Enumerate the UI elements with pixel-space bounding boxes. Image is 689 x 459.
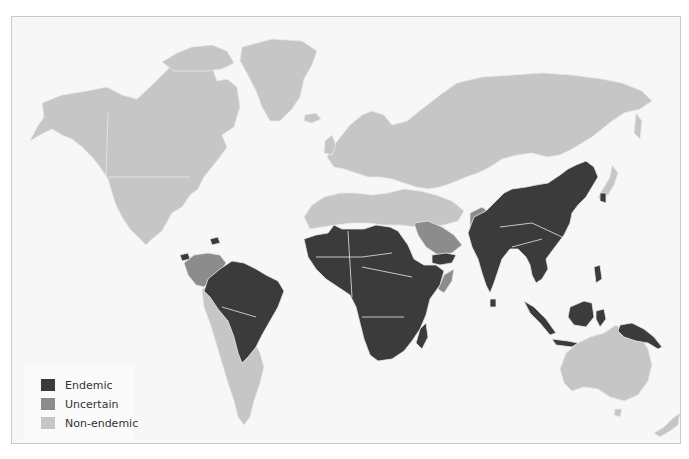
map-frame: Endemic Uncertain Non-endemic — [11, 16, 681, 444]
java — [552, 339, 578, 347]
legend-item-non-endemic: Non-endemic — [41, 416, 138, 430]
saudi-arabia — [414, 221, 462, 255]
new-zealand — [654, 413, 680, 437]
map-legend: Endemic Uncertain Non-endemic — [24, 364, 134, 440]
sumatra — [524, 301, 556, 335]
greenland — [240, 39, 317, 121]
china-india-se-asia — [468, 161, 598, 293]
north-america — [30, 59, 240, 245]
legend-item-endemic: Endemic — [41, 378, 113, 392]
yemen — [432, 253, 456, 265]
haiti — [210, 237, 220, 245]
non-endemic-swatch — [41, 417, 55, 429]
eurasia-north — [327, 73, 652, 189]
north-africa-middle-east — [304, 189, 464, 229]
tasmania — [614, 409, 622, 417]
legend-item-uncertain: Uncertain — [41, 397, 118, 411]
legend-label-uncertain: Uncertain — [65, 398, 118, 411]
borneo — [568, 301, 594, 327]
sulawesi — [596, 309, 606, 327]
legend-label-endemic: Endemic — [65, 379, 113, 392]
canadian-arctic — [162, 45, 234, 71]
endemic-swatch — [41, 379, 55, 391]
sri-lanka — [490, 299, 496, 307]
philippines — [594, 265, 602, 283]
uncertain-swatch — [41, 398, 55, 410]
kamchatka — [634, 113, 642, 139]
korea — [600, 193, 606, 203]
legend-label-non-endemic: Non-endemic — [65, 417, 138, 430]
iceland — [304, 113, 321, 123]
